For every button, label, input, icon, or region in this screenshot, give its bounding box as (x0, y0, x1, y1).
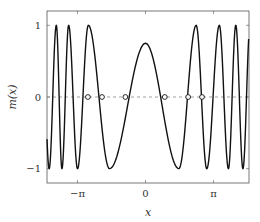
zero-marker (162, 95, 167, 100)
y-tick-label: −1 (26, 163, 41, 174)
y-axis-label: m(x) (6, 84, 19, 109)
x-tick-labels: −π0π (70, 188, 217, 199)
x-tick-label: 0 (142, 188, 148, 199)
x-tick-label: −π (70, 188, 85, 199)
y-tick-label: 0 (35, 92, 41, 103)
y-tick-label: 1 (35, 20, 41, 31)
chart: −π0π −101 x m(x) (0, 0, 260, 222)
zero-marker (200, 95, 205, 100)
zero-marker (123, 95, 128, 100)
zero-marker (100, 95, 105, 100)
zero-marker (86, 95, 91, 100)
y-tick-labels: −101 (26, 20, 41, 174)
zero-marker (186, 95, 191, 100)
x-tick-label: π (210, 188, 217, 199)
x-axis-label: x (145, 206, 152, 219)
